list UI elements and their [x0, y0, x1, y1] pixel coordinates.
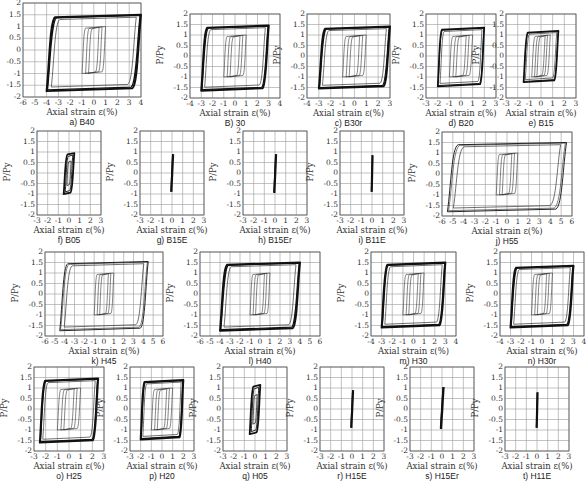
y-tick-label: 2	[106, 362, 128, 371]
subplot-caption: j) H55	[467, 236, 547, 246]
y-tick-label: 0.5	[116, 158, 138, 167]
y-tick-label: 1.5	[21, 258, 43, 267]
y-tick-label: 0.5	[166, 41, 188, 50]
y-tick-label: 2	[283, 9, 305, 18]
y-axis-label: P/Py	[95, 398, 105, 417]
y-tick-label: 1.5	[418, 138, 440, 147]
y-tick-label: -0.5	[347, 300, 369, 309]
y-tick-label: 2	[482, 9, 504, 18]
y-tick-label: 1	[166, 30, 188, 39]
y-tick-label: 1.5	[296, 373, 318, 382]
x-axis-label: Axial strain ε(%)	[210, 346, 310, 356]
y-tick-label: 0.5	[199, 394, 221, 403]
y-tick-label: 1.5	[13, 137, 35, 146]
y-tick-label: -1	[21, 310, 43, 319]
y-tick-label: 2	[13, 126, 35, 135]
y-axis-label: P/Py	[272, 45, 282, 64]
y-tick-label: 0.5	[13, 158, 35, 167]
subplot-a: -2-1.5-1-0.500.511.52-6-5-4-3-2-101234P/…	[23, 3, 141, 97]
hysteresis-curves	[536, 392, 537, 428]
gridlines	[37, 131, 101, 215]
y-tick-label: -1.5	[296, 436, 318, 445]
y-tick-label: -1	[476, 310, 498, 319]
y-tick-label: 0	[481, 404, 503, 413]
y-tick-label: -1	[283, 72, 305, 81]
y-tick-label: -1	[402, 72, 424, 81]
y-tick-label: 2	[219, 126, 241, 135]
x-axis-label: Axial strain ε(%)	[19, 461, 119, 471]
y-tick-label: 1.5	[219, 137, 241, 146]
x-axis-label: Axial strain ε(%)	[487, 461, 587, 471]
y-tick-label: 1.5	[283, 20, 305, 29]
y-tick-label: -0.5	[166, 62, 188, 71]
subplot-l: -2-1.5-1-0.500.511.52-6-5-4-3-2-10123456…	[200, 252, 320, 336]
y-tick-label: -0.5	[13, 179, 35, 188]
y-tick-label: -1	[106, 425, 128, 434]
subplot-e: -2-1.5-1-0.500.511.52-3-2-10123P/PyAxial…	[506, 14, 576, 98]
y-tick-label: -0.5	[116, 179, 138, 188]
hysteresis-curves	[371, 155, 372, 192]
y-tick-label: 0	[418, 169, 440, 178]
y-axis-label: P/Py	[407, 163, 417, 182]
y-tick-label: 1	[10, 383, 32, 392]
y-tick-label: -0.5	[0, 57, 21, 66]
y-tick-label: -0.5	[481, 415, 503, 424]
plot-area	[223, 367, 287, 451]
x-tick-label: 3	[197, 216, 211, 225]
y-tick-label: -1	[296, 425, 318, 434]
gridlines	[223, 367, 287, 451]
x-tick-label: 3	[562, 452, 576, 461]
y-tick-label: 0	[199, 404, 221, 413]
y-tick-label: -1	[13, 189, 35, 198]
plot-area	[37, 131, 101, 215]
y-tick-label: 2	[166, 9, 188, 18]
y-axis-label: P/Py	[465, 283, 475, 302]
y-tick-label: -1.5	[10, 436, 32, 445]
y-tick-label: 1	[316, 147, 338, 156]
y-tick-label: 0	[13, 168, 35, 177]
y-tick-label: 0.5	[347, 279, 369, 288]
y-tick-label: 0.5	[21, 279, 43, 288]
y-tick-label: 2	[0, 0, 21, 7]
x-axis-label: Axial strain ε(%)	[32, 107, 132, 117]
y-tick-label: 0.5	[106, 394, 128, 403]
x-axis-label: Axial strain ε(%)	[364, 346, 464, 356]
y-tick-label: -1.5	[199, 436, 221, 445]
x-axis-label: Axial strain ε(%)	[54, 346, 154, 356]
y-tick-label: -1.5	[116, 200, 138, 209]
subplot-caption: s) H15Er	[402, 471, 482, 481]
y-tick-label: 0	[386, 404, 408, 413]
hysteresis-curves	[440, 387, 443, 429]
y-axis-label: P/Py	[471, 45, 481, 64]
plot-area	[340, 131, 404, 215]
y-axis-label: P/Py	[105, 162, 115, 181]
y-tick-label: -1	[116, 189, 138, 198]
y-tick-label: -1.5	[316, 200, 338, 209]
subplot-caption: t) H11E	[497, 471, 577, 481]
y-tick-label: 0.5	[0, 33, 21, 42]
subplot-caption: p) H20	[122, 471, 202, 481]
y-tick-label: -0.5	[476, 300, 498, 309]
x-axis-label: Axial strain ε(%)	[225, 225, 325, 235]
y-tick-label: -0.5	[199, 415, 221, 424]
y-tick-label: 1	[296, 383, 318, 392]
y-tick-label: -1.5	[476, 321, 498, 330]
subplot-j: -2-1.5-1-0.500.511.52-6-5-4-3-2-10123456…	[442, 132, 572, 216]
subplot-f: -2-1.5-1-0.500.511.52-3-2-10123P/PyAxial…	[37, 131, 101, 215]
subplot-o: -2-1.5-1-0.500.511.52-3-2-10123P/PyAxial…	[34, 367, 104, 451]
y-tick-label: -1.5	[418, 201, 440, 210]
y-axis-label: P/Py	[155, 45, 165, 64]
y-tick-label: -0.5	[176, 300, 198, 309]
y-tick-label: 1.5	[347, 258, 369, 267]
hysteresis-curves	[351, 390, 353, 428]
subplot-caption: k) H45	[64, 356, 144, 366]
y-tick-label: 1	[347, 268, 369, 277]
y-axis-label: P/Py	[2, 162, 12, 181]
y-tick-label: 1	[21, 268, 43, 277]
plot-area	[200, 252, 320, 336]
y-tick-label: 0	[10, 404, 32, 413]
y-tick-label: 0.5	[176, 279, 198, 288]
x-tick-label: 3	[569, 99, 583, 108]
y-tick-label: -0.5	[21, 300, 43, 309]
y-tick-label: 1	[13, 147, 35, 156]
